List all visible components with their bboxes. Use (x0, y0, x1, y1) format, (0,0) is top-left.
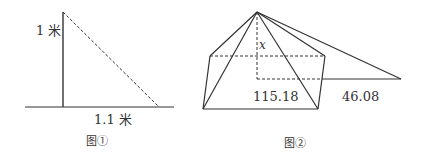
base-left-edge (203, 56, 210, 109)
shadow-length-label: 46.08 (342, 89, 379, 104)
shadow-ray-dashed (63, 12, 159, 107)
edge-apex-front-left (203, 12, 257, 109)
diagram-canvas: 1 米 1.1 米 图① x 115.18 46.08 图② (0, 0, 422, 159)
figure-1-caption: 图① (86, 135, 108, 148)
height-x-label: x (259, 38, 266, 52)
shadow-length-label: 1.1 米 (94, 112, 132, 127)
pole-height-label: 1 米 (36, 23, 61, 38)
base-right-edge (318, 56, 325, 109)
half-base-label: 115.18 (253, 89, 299, 104)
figure-2-caption: 图② (284, 137, 306, 150)
edge-apex-back-right (257, 12, 325, 56)
edge-apex-back-left (210, 12, 257, 56)
